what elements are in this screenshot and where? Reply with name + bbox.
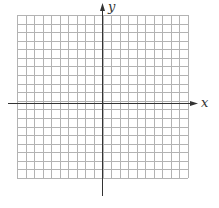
- y-axis-arrow-icon: [100, 3, 105, 11]
- x-axis-label: x: [201, 95, 209, 110]
- coordinate-plane: x y: [0, 0, 219, 208]
- y-axis-label: y: [107, 0, 116, 14]
- x-axis-arrow-icon: [190, 101, 198, 106]
